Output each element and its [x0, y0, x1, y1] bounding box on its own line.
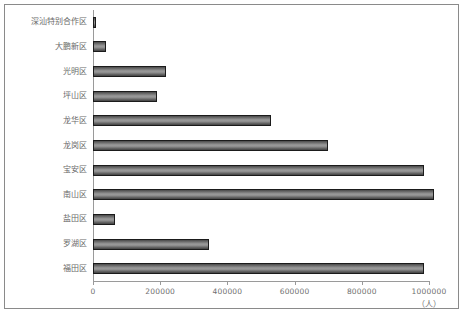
- x-axis-line: [93, 281, 430, 282]
- category-label-6: 宝安区: [0, 165, 87, 175]
- bar-8: [93, 214, 115, 225]
- bar-9: [93, 239, 209, 250]
- category-label-4: 龙华区: [0, 116, 87, 126]
- bar-6: [93, 165, 424, 176]
- x-tick-400000: [227, 281, 228, 285]
- bar-7: [93, 189, 434, 200]
- x-tick-200000: [160, 281, 161, 285]
- x-tick-label-1000000: 1000000: [412, 287, 447, 296]
- bar-0: [93, 17, 96, 28]
- x-tick-0: [93, 281, 94, 285]
- x-tick-label-800000: 800000: [347, 287, 377, 296]
- x-tick-label-600000: 600000: [280, 287, 310, 296]
- x-tick-label-0: 0: [91, 287, 96, 296]
- bar-3: [93, 91, 157, 102]
- category-label-9: 罗湖区: [0, 239, 87, 249]
- category-label-1: 大鹏新区: [0, 42, 87, 52]
- bar-4: [93, 115, 271, 126]
- category-label-2: 光明区: [0, 67, 87, 77]
- category-label-3: 坪山区: [0, 91, 87, 101]
- x-tick-800000: [362, 281, 363, 285]
- category-label-5: 龙岗区: [0, 141, 87, 151]
- bar-chart-figure: 02000004000006000008000001000000 深汕特别合作区…: [0, 0, 464, 314]
- bar-5: [93, 140, 328, 151]
- x-axis-unit-label: （人）: [417, 298, 441, 309]
- category-label-10: 福田区: [0, 264, 87, 274]
- x-tick-600000: [295, 281, 296, 285]
- x-tick-label-400000: 400000: [212, 287, 242, 296]
- category-label-8: 盐田区: [0, 214, 87, 224]
- x-tick-1000000: [429, 281, 430, 285]
- bar-2: [93, 66, 166, 77]
- category-label-7: 南山区: [0, 190, 87, 200]
- category-label-0: 深汕特别合作区: [0, 17, 87, 27]
- bar-1: [93, 41, 106, 52]
- x-tick-label-200000: 200000: [145, 287, 175, 296]
- bar-10: [93, 263, 424, 274]
